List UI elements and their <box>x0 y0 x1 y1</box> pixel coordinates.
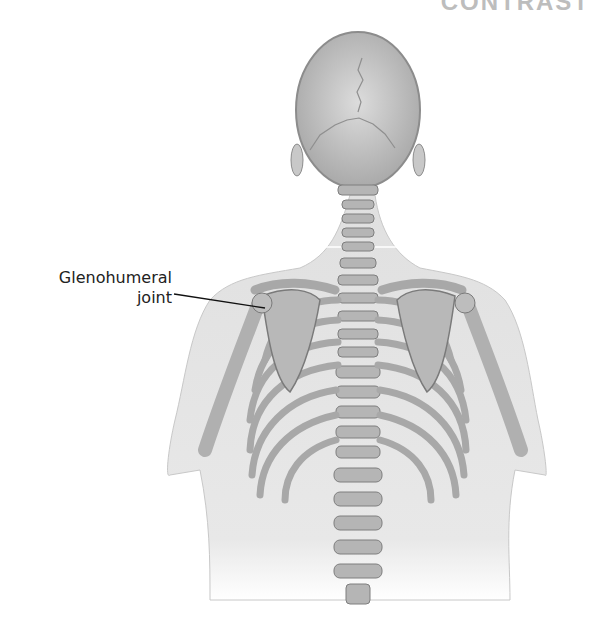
label-joint: joint <box>0 288 172 308</box>
skeleton-illustration <box>0 0 596 634</box>
left-humeral-head <box>252 293 272 313</box>
label-glenohumeral: Glenohumeral <box>0 268 172 288</box>
skull <box>291 32 425 188</box>
right-humeral-head <box>455 293 475 313</box>
